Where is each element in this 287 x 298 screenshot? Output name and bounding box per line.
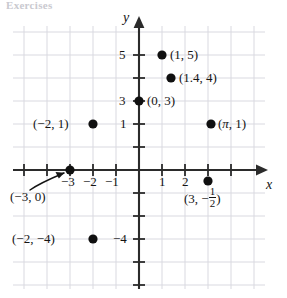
point-label-1-5: (1, 5) (170, 48, 198, 61)
coordinate-plane-figure: Exercises (0, 0, 287, 298)
axis-lines (13, 27, 256, 289)
x-axis-label: x (266, 178, 272, 192)
x-tick-label-neg3: −3 (61, 175, 75, 188)
x-tick-label-neg1: −1 (105, 175, 119, 188)
y-axis-label: y (123, 11, 129, 25)
plot-canvas (0, 0, 287, 298)
point-label-3-neg-half-suffix: ) (216, 191, 220, 206)
point-label-pi-1: (π, 1) (218, 117, 246, 130)
y-tick-label-5: 5 (119, 48, 126, 61)
data-point-neg2-neg4 (88, 234, 97, 243)
point-label-neg2-1: (−2, 1) (33, 117, 69, 130)
point-label-neg3-0: (−3, 0) (10, 190, 46, 203)
x-axis-arrowhead (256, 165, 268, 176)
point-label-0-3: (0, 3) (147, 94, 175, 107)
x-tick-label-1: 1 (159, 175, 166, 188)
data-point-0-3 (134, 96, 143, 105)
point-label-3-neg-half: (3, −12) (184, 186, 221, 209)
y-tick-label-3: 3 (119, 94, 126, 107)
data-point-neg2-1 (88, 119, 97, 128)
data-point-pi-1 (206, 119, 215, 128)
y-tick-label-neg4: −4 (113, 232, 127, 245)
y-axis-arrowhead (134, 16, 145, 28)
x-tick-label-neg2: −2 (83, 175, 97, 188)
data-point-1-5 (157, 50, 166, 59)
point-label-neg2-neg4: (−2, −4) (12, 232, 55, 245)
point-label-3-neg-half-prefix: (3, − (184, 191, 209, 206)
point-label-1.4-4: (1.4, 4) (179, 71, 217, 84)
plot-svg (0, 0, 287, 298)
y-tick-label-1: 1 (120, 117, 127, 130)
data-point-1.4-4 (166, 73, 175, 82)
point-label-pi-1-close: , 1) (229, 116, 246, 131)
